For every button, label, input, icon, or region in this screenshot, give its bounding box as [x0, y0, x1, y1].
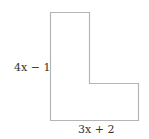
l-shape-outline [51, 13, 139, 121]
bottom-side-label: 3x + 2 [78, 123, 114, 136]
left-side-label: 4x − 1 [14, 61, 50, 74]
